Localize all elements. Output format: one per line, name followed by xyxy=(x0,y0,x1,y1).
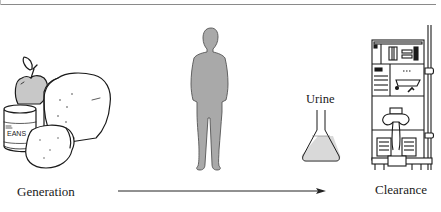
dialysis-machine-icon xyxy=(372,25,434,170)
person-silhouette-icon xyxy=(191,28,228,170)
clearance-label: Clearance xyxy=(375,183,427,196)
generation-label: Generation xyxy=(17,185,75,198)
bread-slice-icon xyxy=(26,125,74,168)
arrow-right-icon xyxy=(118,188,326,194)
apple-icon xyxy=(15,57,47,104)
diagram-canvas: EANS xyxy=(0,0,441,212)
urine-label: Urine xyxy=(306,93,334,106)
can-label: EANS xyxy=(7,130,26,137)
flask-icon xyxy=(302,110,341,161)
food-icon xyxy=(4,57,110,168)
